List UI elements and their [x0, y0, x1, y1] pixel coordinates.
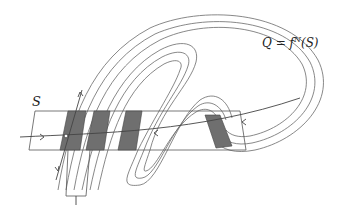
- label-q: Q = fN(S): [262, 35, 319, 50]
- arrow-right-icon: [40, 134, 44, 140]
- arrow-down-icon: [55, 166, 59, 171]
- fixed-point-marker: [64, 134, 68, 138]
- arrow-left-icon: [242, 119, 246, 125]
- horseshoe-diagram: S Q = fN(S): [0, 0, 350, 213]
- label-s: S: [32, 94, 41, 109]
- horizontal-manifold-line: [20, 98, 300, 137]
